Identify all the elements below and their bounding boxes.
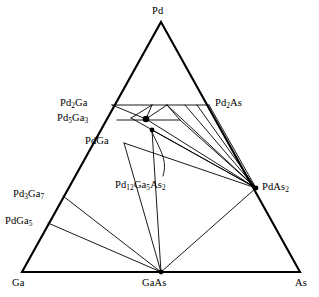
compound-label-pdga5: PdGa5	[5, 216, 33, 227]
vertex-label-ga: Ga	[12, 278, 24, 289]
tie-line-pdga5-gaas	[48, 223, 161, 272]
tie-line-upper-right-pdas2	[167, 105, 256, 188]
tie-line-pd5ga3-pdas2	[131, 118, 256, 188]
ternary-compound-marker-a	[143, 116, 150, 123]
compound-label-pd2as: Pd2As	[215, 98, 242, 109]
compound-label-pd2ga: Pd2Ga	[60, 98, 88, 109]
pdas2-node-dot	[254, 186, 259, 191]
compound-label-pd12ga5as2: Pd12Ga5As2	[115, 180, 166, 191]
tie-line-ternary-a-pdas2	[146, 119, 256, 188]
tie-line-pd2as-pdas2	[209, 105, 256, 188]
tie-line-ternary-b-gaas	[152, 130, 161, 272]
compound-label-pdga: PdGa	[85, 136, 109, 147]
tie-line-gaas-pdas2	[161, 188, 256, 272]
ternary-phase-diagram: Pd Ga As GaAs Pd2Ga Pd5Ga3 PdGa Pd3Ga7 P…	[0, 0, 319, 297]
phase-diagram-canvas	[0, 0, 319, 297]
tie-line-pdga-gaas	[124, 143, 161, 272]
tie-line-pd3ga7-gaas	[63, 196, 161, 272]
compound-label-pdas2: PdAs2	[262, 182, 289, 193]
vertex-label-as: As	[295, 278, 307, 289]
compound-label-gaas: GaAs	[142, 278, 166, 289]
compound-label-pd3ga7: Pd3Ga7	[13, 189, 44, 200]
tie-line-pd2as-region-pdas2-b	[197, 105, 256, 188]
gaas-node-dot	[159, 270, 164, 275]
compound-label-pd5ga3: Pd5Ga3	[57, 113, 88, 124]
triangle-outline	[22, 22, 300, 272]
vertex-label-pd: Pd	[152, 6, 163, 17]
